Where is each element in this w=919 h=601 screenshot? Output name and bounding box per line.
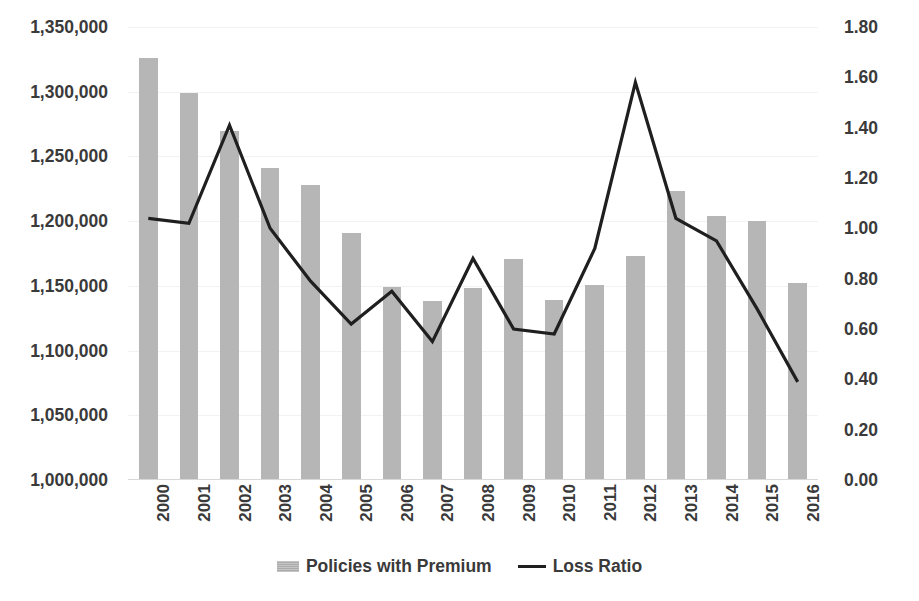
line-swatch-icon — [518, 565, 546, 568]
legend-label-policies-with-premium: Policies with Premium — [306, 556, 492, 577]
x-axis-labels: 2000200120022003200420052006200720082009… — [128, 484, 818, 546]
right-axis-tick: 1.60 — [844, 69, 878, 87]
x-axis-tick-2006: 2006 — [399, 484, 416, 522]
chart-title-strip — [0, 0, 919, 9]
right-axis-tick: 0.60 — [844, 321, 878, 339]
left-axis-tick: 1,350,000 — [30, 19, 108, 37]
x-axis-tick-2008: 2008 — [480, 484, 497, 522]
left-axis-tick: 1,150,000 — [30, 278, 108, 296]
legend-item-loss-ratio[interactable]: Loss Ratio — [518, 556, 642, 577]
plot-area — [128, 27, 818, 480]
chart-legend: Policies with Premium Loss Ratio — [0, 556, 919, 577]
x-axis-tick-2015: 2015 — [764, 484, 781, 522]
x-axis-tick-2002: 2002 — [237, 484, 254, 522]
x-axis-tick-2016: 2016 — [805, 484, 822, 522]
x-axis-tick-2009: 2009 — [521, 484, 538, 522]
chart-container: 1,350,0001,300,0001,250,0001,200,0001,15… — [0, 0, 919, 601]
legend-label-loss-ratio: Loss Ratio — [553, 556, 642, 577]
right-axis-tick: 0.40 — [844, 371, 878, 389]
right-axis-tick: 1.40 — [844, 120, 878, 138]
loss-ratio-polyline — [148, 82, 797, 382]
legend-item-policies-with-premium[interactable]: Policies with Premium — [277, 556, 492, 577]
left-axis-tick: 1,200,000 — [30, 213, 108, 231]
x-axis-tick-2000: 2000 — [155, 484, 172, 522]
x-axis-tick-2013: 2013 — [683, 484, 700, 522]
left-axis-tick: 1,300,000 — [30, 84, 108, 102]
x-axis-tick-2012: 2012 — [642, 484, 659, 522]
right-axis-tick: 1.00 — [844, 220, 878, 238]
right-axis-tick: 0.00 — [844, 472, 878, 490]
left-axis-labels: 1,350,0001,300,0001,250,0001,200,0001,15… — [2, 27, 122, 480]
x-axis-tick-2007: 2007 — [439, 484, 456, 522]
right-axis-tick: 1.20 — [844, 170, 878, 188]
left-axis-tick: 1,000,000 — [30, 472, 108, 490]
right-axis-labels: 1.801.601.401.201.000.800.600.400.200.00 — [826, 27, 916, 480]
line-series-loss-ratio — [128, 27, 818, 480]
x-axis-tick-2003: 2003 — [277, 484, 294, 522]
x-axis-tick-2001: 2001 — [196, 484, 213, 522]
right-axis-tick: 1.80 — [844, 19, 878, 37]
x-axis-tick-2005: 2005 — [358, 484, 375, 522]
right-axis-tick: 0.80 — [844, 271, 878, 289]
x-axis-tick-2014: 2014 — [724, 484, 741, 522]
right-axis-tick: 0.20 — [844, 422, 878, 440]
x-axis-tick-2010: 2010 — [561, 484, 578, 522]
left-axis-tick: 1,250,000 — [30, 148, 108, 166]
x-axis-tick-2004: 2004 — [318, 484, 335, 522]
left-axis-tick: 1,050,000 — [30, 407, 108, 425]
bar-swatch-icon — [277, 561, 299, 572]
left-axis-tick: 1,100,000 — [30, 343, 108, 361]
x-axis-tick-2011: 2011 — [602, 484, 619, 521]
x-axis-baseline — [128, 479, 818, 480]
